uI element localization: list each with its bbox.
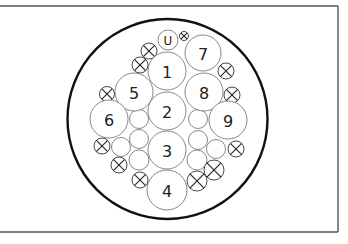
blind-plug-cross-icon [100, 87, 115, 102]
blind-plug-cross-icon [94, 138, 110, 154]
contact-label: 2 [162, 103, 172, 122]
filler-circle [189, 110, 208, 129]
contact-label: 1 [162, 63, 172, 82]
contact-label: 9 [223, 112, 233, 131]
contact-label: 3 [162, 142, 172, 161]
filler-circle [130, 130, 149, 149]
contact-pin-9: 9 [209, 101, 247, 139]
blind-plug-cross-icon [224, 87, 240, 103]
connector-diagram: U715826934 [0, 0, 348, 244]
filler-circle [189, 131, 208, 150]
blind-plug-cross-icon [132, 57, 148, 73]
contact-pin-6: 6 [90, 100, 128, 138]
contact-pin-2: 2 [148, 92, 186, 130]
blind-plug-cross-icon [228, 141, 244, 157]
filler-circle [130, 110, 149, 129]
contact-label: U [164, 34, 173, 48]
contact-label: 8 [199, 84, 209, 103]
filler-circle [207, 140, 226, 159]
contact-label: 7 [198, 45, 208, 64]
contact-label: 5 [129, 84, 139, 103]
blind-plug-cross-icon [111, 157, 127, 173]
contact-pin-4: 4 [147, 170, 187, 210]
contact-pin-1: 1 [148, 52, 186, 90]
blind-plug-cross-icon [187, 171, 207, 191]
contact-pin-3: 3 [148, 131, 186, 169]
filler-circle [129, 150, 149, 170]
contact-pin-u: U [158, 30, 178, 50]
blind-plug-cross-icon [204, 160, 224, 180]
blind-plug-cross-icon [218, 63, 234, 79]
contact-label: 6 [104, 111, 114, 130]
blind-plug-cross-icon [132, 172, 148, 188]
blind-plug-cross-icon [180, 32, 189, 41]
filler-circle [112, 138, 131, 157]
contact-label: 4 [162, 182, 172, 201]
contact-pin-7: 7 [185, 35, 221, 71]
